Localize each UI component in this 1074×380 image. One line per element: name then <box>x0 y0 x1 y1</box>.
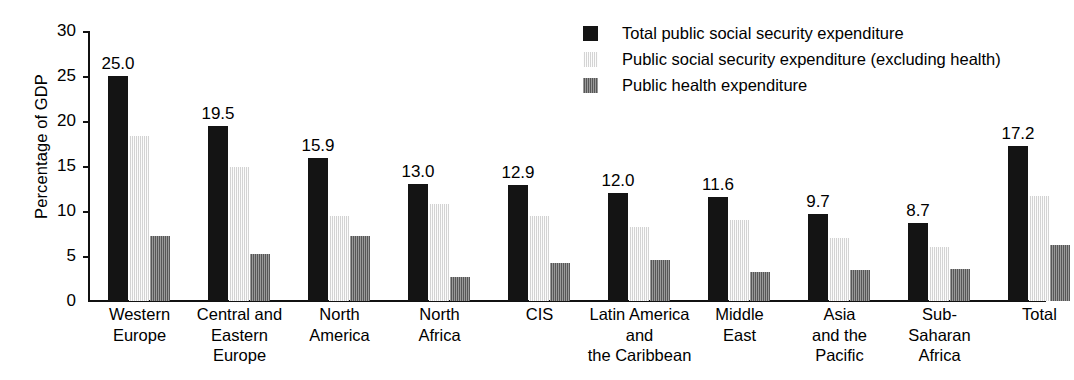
bar-value-label: 9.7 <box>792 193 844 210</box>
bar-group: 15.9 <box>308 31 371 301</box>
bar <box>250 254 270 301</box>
bar <box>350 236 370 301</box>
bar-value-label: 12.0 <box>592 172 644 189</box>
legend-item: Public social security expenditure (excl… <box>583 46 1001 72</box>
legend-label: Public social security expenditure (excl… <box>622 51 1001 68</box>
bar-value-label: 8.7 <box>892 202 944 219</box>
bar <box>729 220 749 301</box>
bar <box>750 272 770 301</box>
bar <box>529 216 549 302</box>
legend-item: Public health expenditure <box>583 72 1001 98</box>
bar-group: 13.0 <box>408 31 471 301</box>
bar <box>408 184 428 301</box>
legend-label: Public health expenditure <box>622 77 807 94</box>
bar-value-label: 15.9 <box>292 137 344 154</box>
bar-group: 19.5 <box>208 31 271 301</box>
bar <box>650 260 670 301</box>
bar <box>808 214 828 301</box>
bar <box>850 270 870 301</box>
bar-value-label: 12.9 <box>492 164 544 181</box>
bar <box>1050 245 1070 301</box>
dark-gray-swatch <box>583 78 598 93</box>
bar-value-label: 25.0 <box>92 55 144 72</box>
bar-group: 17.2 <box>1008 31 1071 301</box>
legend-label: Total public social security expenditure <box>622 25 904 42</box>
bar <box>450 277 470 301</box>
bar <box>1029 196 1049 301</box>
bar <box>1008 146 1028 301</box>
bar-group: 25.0 <box>108 31 171 301</box>
legend: Total public social security expenditure… <box>583 20 1001 98</box>
bar-value-label: 11.6 <box>692 176 744 193</box>
bar <box>550 263 570 301</box>
bar <box>708 197 728 301</box>
y-axis-tick-label: 5 <box>67 247 76 264</box>
black-swatch <box>583 26 598 41</box>
bar <box>150 236 170 301</box>
bar <box>629 227 649 301</box>
bar-value-label: 19.5 <box>192 105 244 122</box>
bar <box>929 247 949 301</box>
bar-value-label: 17.2 <box>992 125 1044 142</box>
bar <box>129 136 149 301</box>
x-axis-label: Total <box>965 304 1074 325</box>
bar <box>950 269 970 301</box>
bar <box>229 167 249 301</box>
y-axis-tick-label: 10 <box>57 202 76 219</box>
y-axis-title: Percentage of GDP <box>32 22 51 272</box>
bar <box>908 223 928 301</box>
y-axis-tick-label: 30 <box>57 22 76 39</box>
bar <box>829 238 849 301</box>
bar <box>308 158 328 301</box>
y-axis-tick-label: 15 <box>57 157 76 174</box>
bar-group: 12.9 <box>508 31 571 301</box>
bar-value-label: 13.0 <box>392 163 444 180</box>
y-axis-tick-label: 20 <box>57 112 76 129</box>
bar <box>608 193 628 301</box>
y-axis-tick-label: 25 <box>57 67 76 84</box>
bar <box>508 185 528 301</box>
bar <box>429 204 449 301</box>
light-gray-swatch <box>583 52 598 67</box>
bar <box>329 216 349 301</box>
legend-item: Total public social security expenditure <box>583 20 1001 46</box>
bar <box>208 126 228 302</box>
bar <box>108 76 128 301</box>
